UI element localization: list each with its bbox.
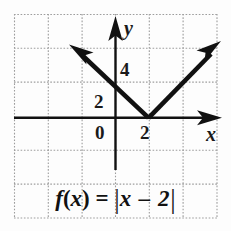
function-formula: f(x) = |x – 2| [0, 182, 231, 213]
formula-open-bar: | [114, 184, 119, 214]
x-axis-label: x [206, 124, 216, 144]
formula-close-bar: | [170, 184, 175, 214]
absolute-value-function-figure: y x 4 2 0 2 f(x) = |x – 2| [0, 0, 231, 231]
y-tick-label-4: 4 [120, 60, 130, 79]
y-axis-label: y [124, 18, 133, 38]
formula-argument: x [71, 186, 83, 211]
formula-expression: x – 2 [120, 186, 171, 211]
y-tick-label-2: 2 [94, 92, 104, 111]
formula-close-paren: ) [82, 186, 90, 211]
formula-open-paren: ( [63, 186, 71, 211]
formula-equals: = [95, 186, 108, 211]
x-tick-label-2: 2 [140, 123, 150, 142]
origin-label: 0 [95, 123, 105, 142]
formula-function-name: f [55, 186, 63, 211]
curve-right-branch [149, 54, 211, 118]
